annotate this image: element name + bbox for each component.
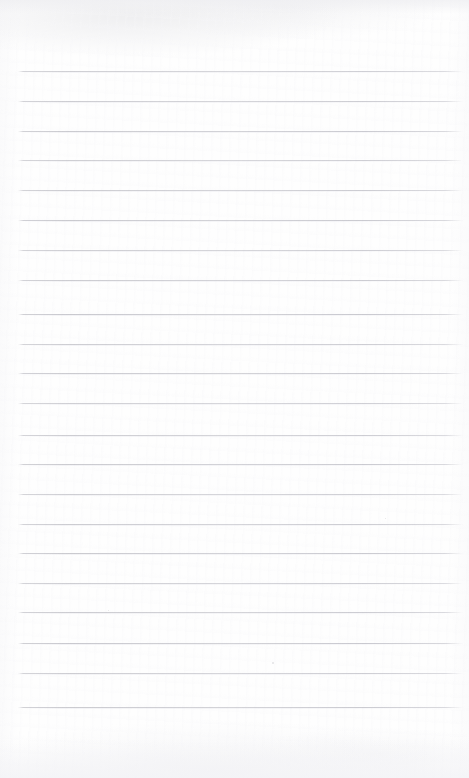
lined-paper-page [0,0,469,778]
handwriting-content-area[interactable] [0,0,469,778]
